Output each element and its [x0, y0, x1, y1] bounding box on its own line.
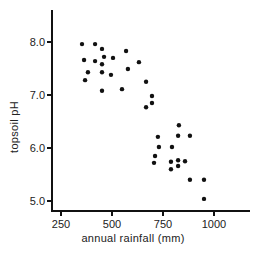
x-tick-label: 750: [154, 218, 172, 230]
axes: [51, 10, 250, 212]
data-point: [150, 94, 154, 98]
data-point: [144, 105, 148, 109]
data-point: [100, 89, 104, 93]
data-point: [183, 159, 187, 163]
data-point: [109, 73, 113, 77]
data-point: [153, 154, 157, 158]
data-point: [150, 101, 154, 105]
data-point: [202, 197, 206, 201]
data-point: [100, 62, 104, 66]
x-tick-label: 250: [52, 218, 70, 230]
data-point: [156, 135, 160, 139]
x-axis-label: annual rainfall (mm): [81, 232, 184, 244]
scatter-chart: 2505007501000 5.06.07.08.0 annual rainfa…: [0, 0, 261, 253]
data-point: [80, 42, 84, 46]
data-point: [188, 178, 192, 182]
data-point: [176, 158, 180, 162]
data-point: [124, 49, 128, 53]
data-point: [177, 123, 181, 127]
y-axis-ticks: 5.06.07.08.0: [30, 36, 52, 207]
data-point: [126, 67, 130, 71]
data-point: [86, 70, 90, 74]
data-point: [120, 87, 124, 91]
x-tick-label: 500: [103, 218, 121, 230]
data-point: [188, 134, 192, 138]
data-point: [93, 42, 97, 46]
data-points: [80, 42, 206, 201]
data-point: [100, 70, 104, 74]
data-point: [83, 78, 87, 82]
data-point: [202, 178, 206, 182]
data-point: [169, 167, 173, 171]
data-point: [169, 160, 173, 164]
data-point: [144, 80, 148, 84]
data-point: [170, 145, 174, 149]
y-tick-label: 5.0: [30, 195, 45, 207]
data-point: [152, 161, 156, 165]
data-point: [100, 47, 104, 51]
data-point: [102, 55, 106, 59]
x-axis-ticks: 2505007501000: [52, 211, 226, 230]
data-point: [176, 164, 180, 168]
y-tick-label: 6.0: [30, 142, 45, 154]
data-point: [111, 56, 115, 60]
data-point: [93, 59, 97, 63]
x-tick-label: 1000: [202, 218, 226, 230]
y-axis-label: topsoil pH: [8, 101, 20, 153]
data-point: [137, 60, 141, 64]
y-tick-label: 7.0: [30, 89, 45, 101]
y-tick-label: 8.0: [30, 36, 45, 48]
data-point: [82, 58, 86, 62]
data-point: [176, 134, 180, 138]
data-point: [157, 145, 161, 149]
